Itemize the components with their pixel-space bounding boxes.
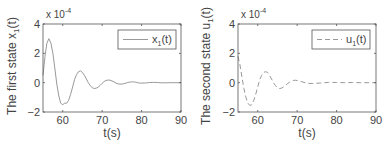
y-tick-label: −2 [27,106,40,118]
x-tick-label: 90 [370,114,382,126]
x-tick-label: 90 [175,114,187,126]
x-tick-label: 60 [57,114,69,126]
chart-panel-first-state: 60708090−2024x 10-4t(s)The first state x… [0,0,196,144]
y-axis-multiplier: x 10-4 [241,7,266,20]
y-tick-label: 0 [34,77,40,89]
y-axis-label: The second state u1(t) [199,7,215,125]
y-tick-label: 0 [229,77,235,89]
legend-label: u1(t) [346,33,366,47]
legend: u1(t) [312,30,370,49]
chart-first-state-x1: 60708090−2024x 10-4t(s)The first state x… [0,0,196,144]
legend: x1(t) [118,30,176,49]
y-axis-multiplier: x 10-4 [46,7,71,20]
x-axis-label: t(s) [298,126,315,140]
y-tick-label: 2 [34,47,40,59]
x-tick-label: 60 [252,114,264,126]
series-line-u1t [238,56,376,105]
y-tick-label: 2 [229,47,235,59]
x-tick-label: 80 [135,114,147,126]
y-tick-label: 4 [34,18,40,30]
x-axis-label: t(s) [103,126,120,140]
legend-label: x1(t) [152,33,172,47]
y-tick-label: −2 [222,106,235,118]
y-axis-label: The first state x1(t) [5,17,21,115]
y-tick-label: 4 [229,18,235,30]
x-tick-label: 80 [330,114,342,126]
x-tick-label: 70 [291,114,303,126]
chart-second-state-u1: 60708090−2024x 10-4t(s)The second state … [196,0,392,144]
x-tick-label: 70 [96,114,108,126]
chart-panel-second-state: 60708090−2024x 10-4t(s)The second state … [196,0,392,144]
